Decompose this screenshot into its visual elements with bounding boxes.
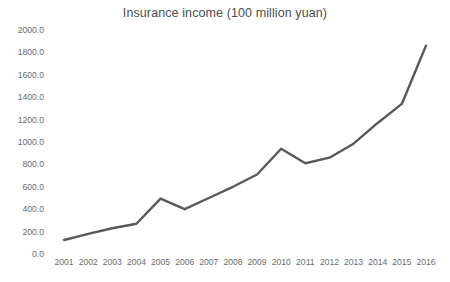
y-tick-label: 1600.0 [18,71,44,80]
plot-area [52,30,438,254]
x-tick-label: 2008 [223,258,242,267]
x-tick-label: 2014 [368,258,387,267]
x-tick-label: 2006 [175,258,194,267]
y-tick-label: 2000.0 [18,26,44,35]
y-tick-label: 1000.0 [18,138,44,147]
x-tick-label: 2007 [199,258,218,267]
y-tick-label: 400.0 [22,205,44,214]
y-tick-label: 600.0 [22,183,44,192]
x-tick-label: 2002 [79,258,98,267]
chart-title: Insurance income (100 million yuan) [0,6,450,20]
x-tick-label: 2011 [296,258,314,267]
y-tick-label: 0.0 [32,250,44,259]
chart-container: Insurance income (100 million yuan) 0.02… [0,0,450,282]
x-axis: 2001200220032004200520062007200820092010… [52,258,438,274]
x-tick-label: 2001 [55,258,74,267]
y-axis: 0.0200.0400.0600.0800.01000.01200.01400.… [0,30,48,254]
x-tick-label: 2013 [344,258,363,267]
x-tick-label: 2016 [416,258,435,267]
y-tick-label: 200.0 [22,227,44,236]
y-tick-label: 1200.0 [18,115,44,124]
y-tick-label: 1400.0 [18,93,44,102]
x-tick-label: 2012 [320,258,339,267]
x-tick-label: 2010 [272,258,291,267]
series-insurance-income-line [64,46,426,240]
x-tick-label: 2004 [127,258,146,267]
x-tick-label: 2009 [248,258,267,267]
x-tick-label: 2003 [103,258,122,267]
line-series [52,30,438,254]
x-tick-label: 2015 [392,258,411,267]
y-tick-label: 800.0 [22,160,44,169]
x-tick-label: 2005 [151,258,170,267]
y-tick-label: 1800.0 [18,48,44,57]
